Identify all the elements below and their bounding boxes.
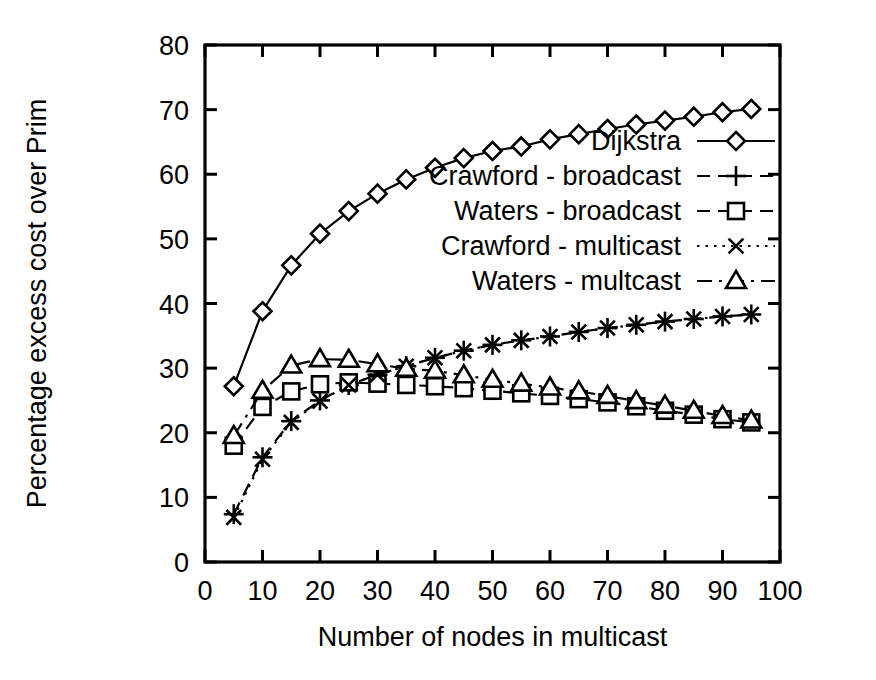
triangle-marker xyxy=(253,381,273,398)
x-tick-label: 20 xyxy=(305,576,335,606)
legend-entry: Waters - multcast xyxy=(472,266,775,296)
legend-label: Waters - multcast xyxy=(472,266,682,296)
triangle-marker xyxy=(310,349,330,366)
x-tick-label: 100 xyxy=(757,576,802,606)
square-marker xyxy=(728,203,744,219)
diamond-marker xyxy=(742,100,760,118)
diamond-marker xyxy=(397,170,415,188)
x-tick-label: 60 xyxy=(535,576,565,606)
legend-label: Crawford - multicast xyxy=(441,231,682,261)
y-tick-label: 80 xyxy=(159,31,189,61)
plus-marker xyxy=(253,447,273,467)
y-tick-label: 0 xyxy=(174,548,189,578)
plus-marker xyxy=(224,504,244,524)
legend-label: Waters - broadcast xyxy=(454,196,682,226)
legend-entry: Waters - broadcast xyxy=(454,196,775,226)
plus-marker xyxy=(726,166,746,186)
legend-entry: Crawford - multicast xyxy=(441,231,775,261)
diamond-marker xyxy=(484,142,502,160)
x-axis-title: Number of nodes in multicast xyxy=(318,622,668,652)
chart-figure: 010203040506070809010001020304050607080 … xyxy=(0,0,876,680)
legend-label: Crawford - broadcast xyxy=(429,161,682,191)
diamond-marker xyxy=(727,132,745,150)
x-tick-label: 80 xyxy=(650,576,680,606)
y-tick-label: 50 xyxy=(159,225,189,255)
x-tick-label: 40 xyxy=(420,576,450,606)
diamond-marker xyxy=(225,377,243,395)
diamond-marker xyxy=(254,302,272,320)
diamond-marker xyxy=(369,185,387,203)
x-tick-label: 10 xyxy=(247,576,277,606)
chart-legend: DijkstraCrawford - broadcastWaters - bro… xyxy=(429,126,775,296)
triangle-marker xyxy=(726,271,746,288)
triangle-marker xyxy=(511,374,531,391)
triangle-marker xyxy=(339,350,359,367)
square-marker xyxy=(312,376,328,392)
diamond-marker xyxy=(685,108,703,126)
x-tick-label: 30 xyxy=(362,576,392,606)
square-marker xyxy=(427,378,443,394)
x-tick-label: 0 xyxy=(197,576,212,606)
series-1 xyxy=(224,304,762,524)
legend-label: Dijkstra xyxy=(591,126,682,156)
square-marker xyxy=(370,376,386,392)
y-tick-label: 70 xyxy=(159,96,189,126)
legend-entry: Crawford - broadcast xyxy=(429,161,775,191)
y-tick-label: 30 xyxy=(159,354,189,384)
triangle-marker xyxy=(540,378,560,395)
triangle-marker xyxy=(224,426,244,443)
diamond-marker xyxy=(512,137,530,155)
y-tick-label: 20 xyxy=(159,419,189,449)
legend-entry: Dijkstra xyxy=(591,126,775,156)
diamond-marker xyxy=(714,103,732,121)
square-marker xyxy=(283,383,299,399)
square-marker xyxy=(341,374,357,390)
diamond-marker xyxy=(541,130,559,148)
x-tick-label: 90 xyxy=(707,576,737,606)
series-markers xyxy=(224,304,762,524)
y-tick-label: 60 xyxy=(159,160,189,190)
square-marker xyxy=(398,377,414,393)
diamond-marker xyxy=(570,125,588,143)
y-axis-title: Percentage excess cost over Prim xyxy=(22,99,52,509)
x-tick-label: 50 xyxy=(477,576,507,606)
x-tick-label: 70 xyxy=(592,576,622,606)
line-chart: 010203040506070809010001020304050607080 … xyxy=(0,0,876,680)
y-tick-label: 10 xyxy=(159,483,189,513)
y-tick-label: 40 xyxy=(159,290,189,320)
